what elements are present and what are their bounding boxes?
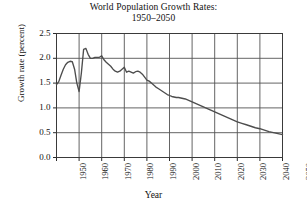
x-tick-label: 1980 <box>145 163 155 180</box>
x-tick-label: 1950 <box>78 163 88 180</box>
y-tick-label: 2.5 <box>25 28 51 38</box>
x-tick-label: 2040 <box>281 163 291 180</box>
y-tick-label: 0.0 <box>25 152 51 162</box>
x-tick-label: 1960 <box>100 163 110 180</box>
x-tick-label: 1990 <box>168 163 178 180</box>
y-tick-label: 0.5 <box>25 127 51 137</box>
x-tick-label: 1970 <box>123 163 133 180</box>
chart-figure: World Population Growth Rates: 1950–2050… <box>0 0 307 207</box>
x-tick-label: 2010 <box>213 163 223 180</box>
x-tick-label: 2030 <box>258 163 268 180</box>
x-axis-label: Year <box>0 190 307 200</box>
x-tick-label: 2050 <box>304 163 308 180</box>
x-tick-label: 2000 <box>191 163 201 180</box>
y-tick-label: 1.5 <box>25 77 51 87</box>
y-tick-label: 1.0 <box>25 102 51 112</box>
y-tick-label: 2.0 <box>25 52 51 62</box>
x-tick-label: 2020 <box>236 163 246 180</box>
